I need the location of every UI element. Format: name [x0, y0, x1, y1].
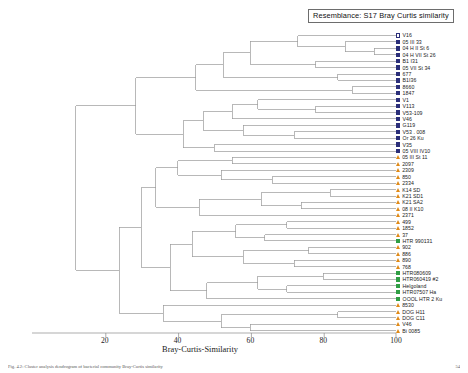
leaf-label-text: 04 H II St 6	[403, 45, 430, 51]
leaf-label-row: V53 . 008	[396, 129, 425, 135]
leaf-label-text: V16	[403, 32, 412, 38]
leaf-label-row: B1I36	[396, 77, 416, 83]
leaf-marker-square-filled-icon	[396, 110, 400, 114]
leaf-marker-triangle-orange-icon	[396, 194, 400, 198]
leaf-marker-square-filled-icon	[396, 59, 400, 63]
leaf-label-row: 05 VII St 34	[396, 64, 430, 70]
leaf-label-text: 05 III St 11	[402, 154, 427, 160]
leaf-label-row: 499	[396, 218, 411, 224]
leaf-marker-square-green-icon	[396, 271, 400, 275]
leaf-label-row: B1 I31	[396, 58, 418, 64]
x-tick-label-100: 100	[390, 336, 401, 345]
leaf-label-row: V46	[396, 321, 412, 327]
leaf-label-row: HTR080609	[396, 270, 431, 276]
leaf-marker-triangle-orange-icon	[396, 175, 400, 179]
leaf-marker-triangle-orange-icon	[396, 245, 400, 249]
leaf-label-row: Bi 0085	[396, 328, 420, 334]
leaf-label-row: 04 H VII St 26	[396, 52, 436, 58]
leaf-label-row: HTR07507 Ha	[396, 289, 436, 295]
leaf-marker-square-filled-icon	[396, 65, 400, 69]
leaf-label-row: 677	[396, 71, 411, 77]
leaf-label-text: 2371	[402, 212, 414, 218]
leaf-marker-square-filled-icon	[396, 142, 400, 146]
leaf-label-row: K14 SD	[396, 186, 420, 192]
leaf-marker-square-filled-icon	[396, 78, 400, 82]
leaf-label-row: 8530	[396, 302, 414, 308]
leaf-label-row: 04 H II St 6	[396, 45, 429, 51]
leaf-marker-square-filled-icon	[396, 85, 400, 89]
leaf-marker-square-filled-icon	[396, 136, 400, 140]
leaf-label-row: Or 26 Ku	[396, 135, 424, 141]
leaf-label-text: Or 26 Ku	[403, 135, 424, 141]
leaf-marker-square-filled-icon	[396, 72, 400, 76]
leaf-label-row: HTR 990131	[396, 238, 433, 244]
leaf-label-row: 08 II K10	[396, 206, 423, 212]
x-tick-label-20: 20	[101, 336, 109, 345]
leaf-label-row: 05 III St 11	[396, 154, 428, 160]
leaf-label-text: 902	[402, 244, 411, 250]
leaf-label-text: DOG H11	[402, 309, 425, 315]
leaf-label-text: K14 SD	[402, 187, 420, 193]
leaf-label-text: 8530	[402, 302, 414, 308]
leaf-label-text: 04 H VII St 26	[403, 52, 436, 58]
leaf-label-row: 2334	[396, 180, 414, 186]
leaf-marker-triangle-orange-icon	[396, 181, 400, 185]
caption-text: Fig. 4.2: Cluster analysis dendrogram of…	[8, 364, 163, 369]
leaf-marker-square-green-icon	[396, 277, 400, 281]
leaf-label-row: 768	[396, 263, 411, 269]
leaf-label-text: V53 . 008	[403, 129, 426, 135]
leaf-label-row: K21 SD1	[396, 193, 423, 199]
leaf-label-row: G119	[396, 122, 415, 128]
leaf-label-row: V113	[396, 103, 415, 109]
leaf-label-row: OOOL HTR 2 Ku	[396, 296, 442, 302]
leaf-label-text: V35	[403, 142, 412, 148]
leaf-marker-square-filled-icon	[396, 130, 400, 134]
leaf-label-row: 850	[396, 174, 411, 180]
leaf-label-row: 37	[396, 231, 408, 237]
leaf-marker-triangle-orange-icon	[396, 322, 400, 326]
leaf-marker-square-filled-icon	[396, 149, 400, 153]
leaf-label-row: 902	[396, 244, 411, 250]
leaf-label-row: DOG C11	[396, 315, 425, 321]
leaf-label-text: HTR080609	[403, 270, 431, 276]
leaf-label-row: 2371	[396, 212, 414, 218]
leaf-label-text: OOOL HTR 2 Ku	[403, 296, 443, 302]
leaf-label-text: V46	[403, 116, 412, 122]
leaf-marker-square-filled-icon	[396, 123, 400, 127]
leaf-marker-square-filled-icon	[396, 91, 400, 95]
leaf-label-text: 499	[402, 219, 411, 225]
leaf-label-row: 8660	[396, 84, 414, 90]
leaf-marker-square-filled-icon	[396, 40, 400, 44]
leaf-label-text: 05 III 33	[403, 39, 422, 45]
leaf-marker-triangle-orange-icon	[396, 310, 400, 314]
leaf-label-row: Helgoland	[396, 283, 426, 289]
leaf-label-row: 1847	[396, 90, 414, 96]
leaf-marker-square-filled-icon	[396, 53, 400, 57]
dendrogram-figure: Resemblance: S17 Bray Curtis similarity …	[0, 0, 468, 373]
leaf-label-text: 2334	[402, 180, 414, 186]
leaf-label-text: HTR07507 Ha	[403, 289, 437, 295]
leaf-marker-triangle-orange-icon	[396, 258, 400, 262]
leaf-marker-square-filled-icon	[396, 104, 400, 108]
leaf-label-row: 1852	[396, 225, 414, 231]
leaf-marker-square-filled-icon	[396, 98, 400, 102]
leaf-marker-triangle-orange-icon	[396, 207, 400, 211]
leaf-label-text: 37	[402, 232, 408, 238]
leaf-label-row: 886	[396, 251, 411, 257]
leaf-label-text: G119	[403, 122, 416, 128]
leaf-marker-square-filled-icon	[396, 46, 400, 50]
plot-area: V1605 III 3304 H II St 604 H VII St 26B1…	[0, 0, 468, 373]
leaf-label-text: 05 VIII IV10	[403, 148, 431, 154]
leaf-marker-square-green-icon	[396, 297, 400, 301]
leaf-label-text: HTR 990131	[403, 238, 433, 244]
leaf-label-row: V53-109	[396, 109, 423, 115]
leaf-label-text: 1852	[402, 225, 414, 231]
leaf-label-row: V35	[396, 141, 412, 147]
leaf-label-text: K21 SA2	[402, 199, 423, 205]
leaf-label-text: 768	[402, 264, 411, 270]
leaf-label-text: DOG C11	[402, 315, 425, 321]
leaf-label-text: V1	[403, 97, 409, 103]
leaf-marker-triangle-orange-icon	[396, 316, 400, 320]
leaf-label-text: 05 VII St 34	[403, 65, 431, 71]
leaf-marker-triangle-orange-icon	[396, 213, 400, 217]
